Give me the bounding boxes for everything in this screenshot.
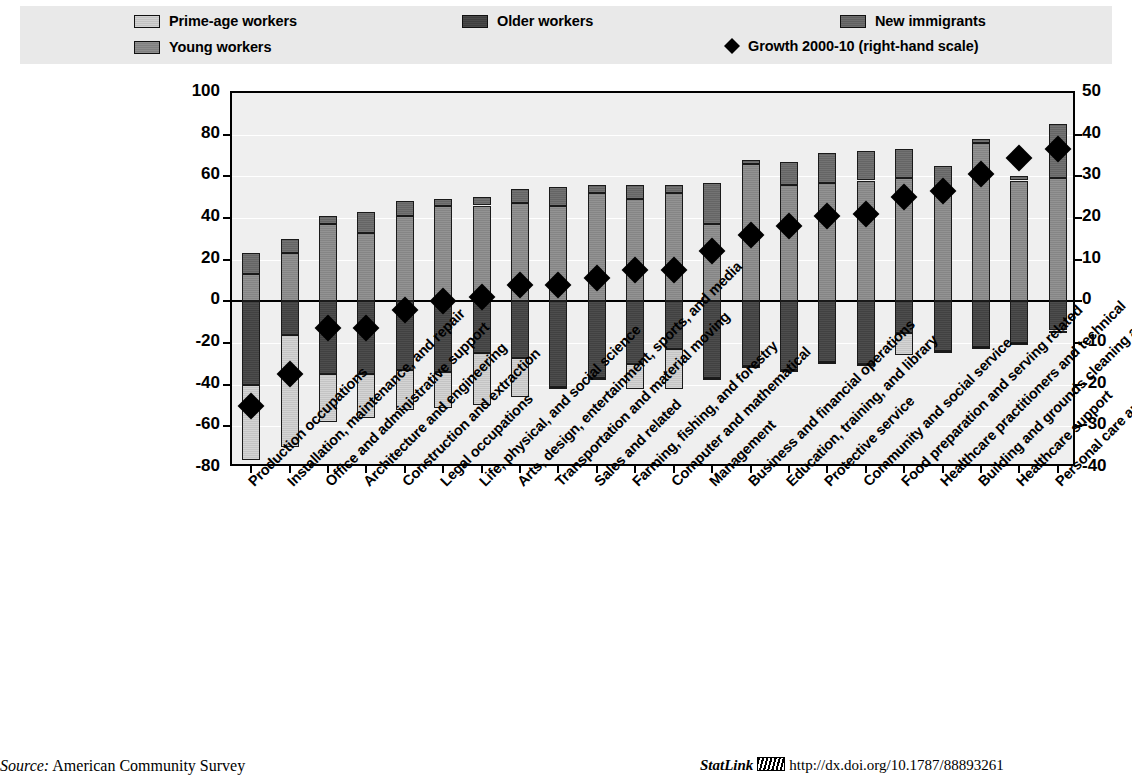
bar-segment xyxy=(742,160,760,164)
bar-segment xyxy=(742,301,760,366)
bar-segment xyxy=(780,162,798,185)
x-axis-tick xyxy=(1057,464,1059,473)
prime-age-swatch xyxy=(134,15,160,28)
bar-segment xyxy=(357,374,375,418)
young-swatch xyxy=(134,41,160,54)
bar-segment xyxy=(319,374,337,422)
bar-segment xyxy=(895,333,913,356)
x-axis-tick xyxy=(250,464,252,473)
bar-segment xyxy=(665,193,683,301)
x-axis-tick xyxy=(519,464,521,473)
x-axis-tick xyxy=(289,464,291,473)
bar-segment xyxy=(511,301,529,357)
bar-column[interactable] xyxy=(742,93,760,468)
bar-segment xyxy=(281,301,299,334)
y-axis-label-left: 20 xyxy=(160,248,220,268)
bar-segment xyxy=(319,216,337,224)
bar-column[interactable] xyxy=(934,93,952,468)
x-axis-tick xyxy=(327,464,329,473)
bar-segment xyxy=(703,183,721,225)
x-axis-tick xyxy=(711,464,713,473)
bar-column[interactable] xyxy=(972,93,990,468)
bar-column[interactable] xyxy=(396,93,414,468)
source-label: Source: xyxy=(0,757,49,774)
bar-segment xyxy=(1010,301,1028,343)
y-axis-label-left: 60 xyxy=(160,164,220,184)
chart-legend: Prime-age workers Young workers Older wo… xyxy=(20,6,1112,64)
bar-column[interactable] xyxy=(895,93,913,468)
bar-segment xyxy=(626,364,644,389)
statlink-icon xyxy=(757,757,785,771)
bar-segment xyxy=(626,301,644,364)
bar-segment xyxy=(895,149,913,178)
bar-segment xyxy=(281,253,299,301)
bar-segment xyxy=(818,362,836,364)
y-axis-label-left: -80 xyxy=(160,456,220,476)
statlink-label: StatLink xyxy=(700,757,753,773)
y-axis-label-right: -40 xyxy=(1082,456,1132,476)
y-axis-label-right: -20 xyxy=(1082,373,1132,393)
bar-segment xyxy=(626,199,644,301)
bar-segment xyxy=(934,191,952,301)
x-axis-tick xyxy=(788,464,790,473)
y-axis-label-right: 10 xyxy=(1082,248,1132,268)
bar-segment xyxy=(396,370,414,410)
bar-segment xyxy=(242,274,260,301)
x-axis-tick xyxy=(942,464,944,473)
legend-label-prime-age: Prime-age workers xyxy=(169,13,297,29)
bar-column[interactable] xyxy=(818,93,836,468)
y-axis-tick-right xyxy=(1073,259,1082,261)
bar-column[interactable] xyxy=(780,93,798,468)
y-axis-tick-right xyxy=(1073,300,1082,302)
bar-segment xyxy=(818,183,836,302)
legend-item-new-immigrants: New immigrants xyxy=(840,13,986,29)
y-axis-label-right: 30 xyxy=(1082,164,1132,184)
bar-column[interactable] xyxy=(703,93,721,468)
x-axis-tick xyxy=(750,464,752,473)
bar-segment xyxy=(549,301,567,386)
y-axis-label-left: 80 xyxy=(160,123,220,143)
x-axis-tick xyxy=(1018,464,1020,473)
bar-segment xyxy=(857,364,875,366)
y-axis-label-right: 50 xyxy=(1082,81,1132,101)
bar-segment xyxy=(588,301,606,378)
source-text: American Community Survey xyxy=(52,757,245,774)
y-axis-tick-left xyxy=(223,300,232,302)
y-axis-tick-right xyxy=(1073,425,1082,427)
y-axis-tick-left xyxy=(223,342,232,344)
chart-plot-area xyxy=(230,91,1075,466)
x-axis-tick xyxy=(404,464,406,473)
bar-column[interactable] xyxy=(434,93,452,468)
bar-segment xyxy=(357,212,375,233)
older-swatch xyxy=(462,15,488,28)
statlink-note: StatLinkhttp://dx.doi.org/10.1787/888932… xyxy=(700,757,1004,774)
y-axis-label-right: 0 xyxy=(1082,289,1132,309)
statlink-url[interactable]: http://dx.doi.org/10.1787/88893261 xyxy=(789,757,1003,773)
bar-column[interactable] xyxy=(857,93,875,468)
bar-segment xyxy=(972,347,990,349)
bar-column[interactable] xyxy=(473,93,491,468)
bar-segment xyxy=(780,185,798,302)
bar-segment xyxy=(357,233,375,302)
legend-item-growth: Growth 2000-10 (right-hand scale) xyxy=(724,38,978,54)
bar-segment xyxy=(549,187,567,206)
bar-segment xyxy=(1010,181,1028,302)
bar-segment xyxy=(626,185,644,200)
bar-segment xyxy=(281,239,299,254)
legend-label-young: Young workers xyxy=(169,39,271,55)
x-axis-tick xyxy=(826,464,828,473)
y-axis-tick-left xyxy=(223,134,232,136)
x-axis-tick xyxy=(865,464,867,473)
y-axis-label-left: 100 xyxy=(160,81,220,101)
y-axis-tick-left xyxy=(223,425,232,427)
bar-column[interactable] xyxy=(281,93,299,468)
bar-segment xyxy=(665,301,683,349)
bar-segment xyxy=(780,370,798,372)
bar-column[interactable] xyxy=(319,93,337,468)
y-axis-tick-left xyxy=(223,384,232,386)
y-axis-tick-right xyxy=(1073,384,1082,386)
x-axis-tick xyxy=(903,464,905,473)
bar-column[interactable] xyxy=(357,93,375,468)
bar-segment xyxy=(1049,331,1067,333)
bar-segment xyxy=(396,201,414,216)
